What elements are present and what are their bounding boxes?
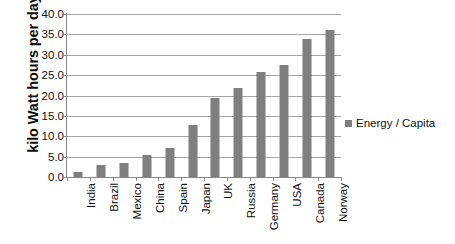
- bar[interactable]: [97, 165, 106, 177]
- bar[interactable]: [142, 155, 151, 177]
- x-axis-tick-mark: [227, 177, 228, 181]
- x-axis-tick-mark: [90, 177, 91, 181]
- y-axis-tick-mark: [63, 75, 67, 76]
- y-axis-tick-mark: [63, 14, 67, 15]
- y-axis-tick-mark: [63, 157, 67, 158]
- bar-slot: [318, 14, 341, 177]
- bar[interactable]: [120, 163, 129, 177]
- y-axis-tick-mark: [63, 136, 67, 137]
- bar-slot: [273, 14, 296, 177]
- x-axis-category-labels: IndiaBrazilMexicoChinaSpainJapanUKRussia…: [67, 183, 341, 241]
- bar-slot: [113, 14, 136, 177]
- x-axis-category-label: Mexico: [130, 183, 144, 241]
- y-axis-tick-labels: 0.05.010.015.020.025.030.035.040.0: [26, 8, 64, 184]
- plot-area: [67, 14, 341, 177]
- x-axis-tick-mark: [67, 177, 68, 181]
- x-axis-category-label: Canada: [313, 183, 327, 241]
- x-axis-tick-mark: [181, 177, 182, 181]
- bar[interactable]: [211, 98, 220, 177]
- y-axis-tick-label: 20.0: [26, 90, 64, 102]
- y-axis-tick-label: 10.0: [26, 130, 64, 142]
- x-axis-category-label: China: [153, 183, 167, 241]
- y-axis-tick-mark: [63, 34, 67, 35]
- bar[interactable]: [188, 125, 197, 177]
- bar[interactable]: [257, 72, 266, 177]
- bar-slot: [90, 14, 113, 177]
- x-axis-tick-mark: [318, 177, 319, 181]
- x-axis-tick-mark: [250, 177, 251, 181]
- x-axis-tick-mark: [204, 177, 205, 181]
- bar[interactable]: [279, 65, 288, 177]
- legend-color-swatch-icon: [345, 120, 352, 127]
- bar[interactable]: [325, 30, 334, 178]
- x-axis-tick-mark: [273, 177, 274, 181]
- y-axis-tick-label: 0.0: [26, 171, 64, 183]
- y-axis-tick-mark: [63, 55, 67, 56]
- x-axis-category-label: Russia: [244, 183, 258, 241]
- x-axis-tick-mark: [295, 177, 296, 181]
- bar[interactable]: [165, 148, 174, 177]
- x-axis-category-label: Japan: [199, 183, 213, 241]
- x-axis-category-label: UK: [221, 183, 235, 241]
- legend-item-label: Energy / Capita: [356, 117, 435, 130]
- bars-group: [67, 14, 341, 177]
- bar-slot: [295, 14, 318, 177]
- bar-slot: [136, 14, 159, 177]
- x-axis-ticks: [67, 177, 341, 182]
- y-axis-tick-label: 5.0: [26, 151, 64, 163]
- x-axis-tick-mark: [341, 177, 342, 181]
- x-axis-category-label: Brazil: [107, 183, 121, 241]
- x-axis-tick-mark: [136, 177, 137, 181]
- x-axis-category-label: Spain: [176, 183, 190, 241]
- y-axis-tick-label: 40.0: [26, 8, 64, 20]
- x-axis-category-label: Norway: [336, 183, 350, 241]
- bar-slot: [250, 14, 273, 177]
- x-axis-tick-mark: [113, 177, 114, 181]
- bar-slot: [67, 14, 90, 177]
- x-axis-category-label: USA: [290, 183, 304, 241]
- chart-legend: Energy / Capita: [345, 117, 435, 130]
- y-axis-tick-label: 35.0: [26, 28, 64, 40]
- bar[interactable]: [302, 39, 311, 177]
- y-axis-tick-label: 30.0: [26, 49, 64, 61]
- y-axis-tick-label: 15.0: [26, 110, 64, 122]
- bar-slot: [204, 14, 227, 177]
- y-axis-tick-mark: [63, 116, 67, 117]
- x-axis-tick-mark: [158, 177, 159, 181]
- bar-slot: [158, 14, 181, 177]
- x-axis-category-label: India: [84, 183, 98, 241]
- y-axis-tick-mark: [63, 96, 67, 97]
- bar[interactable]: [234, 88, 243, 177]
- bar-slot: [227, 14, 250, 177]
- bar-chart: kilo Watt hours per day 0.05.010.015.020…: [0, 0, 455, 244]
- x-axis-category-label: Germany: [267, 183, 281, 241]
- y-axis-tick-label: 25.0: [26, 69, 64, 81]
- bar-slot: [181, 14, 204, 177]
